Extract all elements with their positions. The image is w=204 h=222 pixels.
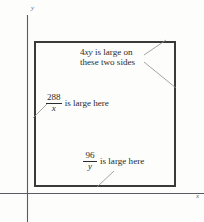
fraction-numerator: 96 [84, 151, 95, 161]
y-axis-label: y [31, 5, 34, 13]
annotation-4xy-line1: 4xy is large on [80, 47, 135, 57]
leader-line-to-bottom-edge [97, 171, 114, 187]
fraction-288-over-x: 288 x [46, 93, 62, 114]
fraction-96-over-y: 96 y [83, 151, 97, 172]
fraction-denominator: x [51, 104, 57, 114]
annotation-4xy-suffix: is large on [93, 47, 133, 57]
annotation-4xy: 4xy is large on these two sides [80, 47, 135, 67]
leader-line-to-right-edge [144, 62, 176, 88]
x-axis-label: x [196, 193, 199, 201]
fraction-numerator: 288 [46, 93, 62, 103]
annotation-96-over-y: 96 y is large here [83, 151, 144, 172]
annotation-bottom-text: is large here [100, 156, 144, 166]
annotation-4xy-line2: these two sides [80, 57, 135, 67]
annotation-left-text: is large here [65, 98, 109, 108]
fraction-denominator: y [87, 162, 93, 172]
annotation-288-over-x: 288 x is large here [46, 93, 109, 114]
cost-function-region-diagram: y x 4xy is large on these two sides 288 … [0, 0, 204, 222]
